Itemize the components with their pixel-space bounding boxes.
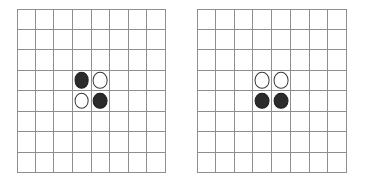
board-cell[interactable] [92, 50, 111, 71]
board-cell[interactable] [17, 91, 36, 112]
board-cell[interactable] [92, 153, 111, 174]
board-cell[interactable] [197, 112, 216, 133]
board-cell[interactable] [310, 112, 329, 133]
board-cell[interactable] [235, 91, 254, 112]
board-cell[interactable] [17, 9, 36, 30]
board-cell[interactable] [291, 50, 310, 71]
board-cell[interactable] [17, 50, 36, 71]
board-cell[interactable] [110, 153, 129, 174]
board-cell[interactable] [216, 132, 235, 153]
board-cell[interactable] [216, 30, 235, 51]
left-board[interactable] [17, 9, 166, 173]
board-cell[interactable] [272, 30, 291, 51]
board-cell[interactable] [197, 9, 216, 30]
board-cell[interactable] [110, 132, 129, 153]
board-cell[interactable] [54, 112, 73, 133]
board-cell[interactable] [147, 153, 166, 174]
board-cell[interactable] [17, 30, 36, 51]
board-cell[interactable] [328, 153, 347, 174]
board-cell[interactable] [147, 30, 166, 51]
board-cell[interactable] [310, 30, 329, 51]
board-cell[interactable] [129, 71, 148, 92]
board-cell[interactable] [129, 50, 148, 71]
board-cell[interactable] [310, 71, 329, 92]
board-cell[interactable] [197, 91, 216, 112]
board-cell[interactable] [197, 30, 216, 51]
board-cell[interactable] [110, 50, 129, 71]
board-cell[interactable] [253, 153, 272, 174]
board-cell[interactable] [36, 112, 55, 133]
board-cell[interactable] [310, 132, 329, 153]
board-cell[interactable] [197, 50, 216, 71]
board-cell[interactable] [235, 9, 254, 30]
board-cell[interactable] [110, 91, 129, 112]
board-cell[interactable] [310, 153, 329, 174]
board-cell[interactable] [36, 9, 55, 30]
board-cell[interactable] [17, 71, 36, 92]
board-cell[interactable] [328, 91, 347, 112]
board-cell[interactable] [129, 153, 148, 174]
board-cell[interactable] [17, 153, 36, 174]
board-cell[interactable] [272, 71, 291, 92]
black-stone[interactable] [273, 93, 288, 109]
board-cell[interactable] [272, 132, 291, 153]
board-cell[interactable] [147, 9, 166, 30]
board-cell[interactable] [92, 9, 111, 30]
board-cell[interactable] [36, 91, 55, 112]
board-cell[interactable] [17, 132, 36, 153]
board-cell[interactable] [54, 50, 73, 71]
board-cell[interactable] [110, 9, 129, 30]
board-cell[interactable] [310, 9, 329, 30]
board-cell[interactable] [310, 50, 329, 71]
board-cell[interactable] [235, 153, 254, 174]
board-cell[interactable] [92, 112, 111, 133]
board-cell[interactable] [73, 71, 92, 92]
board-cell[interactable] [291, 132, 310, 153]
board-cell[interactable] [147, 50, 166, 71]
black-stone[interactable] [74, 72, 89, 88]
board-cell[interactable] [110, 71, 129, 92]
board-cell[interactable] [216, 153, 235, 174]
board-cell[interactable] [272, 50, 291, 71]
board-cell[interactable] [36, 132, 55, 153]
board-cell[interactable] [92, 91, 111, 112]
board-cell[interactable] [197, 132, 216, 153]
board-cell[interactable] [92, 71, 111, 92]
board-cell[interactable] [54, 132, 73, 153]
board-cell[interactable] [197, 153, 216, 174]
board-cell[interactable] [36, 153, 55, 174]
board-cell[interactable] [272, 91, 291, 112]
white-stone[interactable] [74, 93, 89, 109]
board-cell[interactable] [147, 71, 166, 92]
board-cell[interactable] [147, 132, 166, 153]
board-cell[interactable] [272, 153, 291, 174]
board-cell[interactable] [129, 9, 148, 30]
board-cell[interactable] [73, 9, 92, 30]
board-cell[interactable] [253, 71, 272, 92]
board-cell[interactable] [328, 112, 347, 133]
board-cell[interactable] [147, 112, 166, 133]
board-cell[interactable] [110, 30, 129, 51]
board-cell[interactable] [291, 153, 310, 174]
board-cell[interactable] [328, 9, 347, 30]
board-cell[interactable] [36, 71, 55, 92]
white-stone[interactable] [255, 72, 270, 88]
board-cell[interactable] [253, 30, 272, 51]
board-cell[interactable] [147, 91, 166, 112]
board-cell[interactable] [253, 91, 272, 112]
board-cell[interactable] [235, 50, 254, 71]
board-cell[interactable] [235, 71, 254, 92]
board-cell[interactable] [73, 91, 92, 112]
board-cell[interactable] [129, 112, 148, 133]
board-cell[interactable] [253, 9, 272, 30]
board-cell[interactable] [291, 30, 310, 51]
board-cell[interactable] [73, 50, 92, 71]
board-cell[interactable] [54, 91, 73, 112]
board-cell[interactable] [272, 112, 291, 133]
board-cell[interactable] [17, 112, 36, 133]
board-cell[interactable] [73, 132, 92, 153]
board-cell[interactable] [129, 30, 148, 51]
board-cell[interactable] [54, 71, 73, 92]
board-cell[interactable] [216, 71, 235, 92]
board-cell[interactable] [291, 71, 310, 92]
